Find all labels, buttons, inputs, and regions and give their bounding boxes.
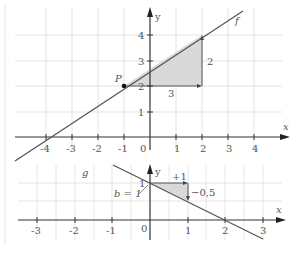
point-p [122,84,127,89]
x-tick-label: -1 [118,143,128,154]
x-tick-label: -4 [40,143,50,154]
run-label-f: 3 [168,88,174,99]
y-axis-label-bottom: y [154,166,161,177]
x-tick-label: 0 [141,223,147,234]
y-tick-label: 1 [138,107,144,118]
x-tick-label: 4 [252,143,258,154]
intercept-label: b = 1 [114,188,142,199]
rise-label-f: 2 [207,56,213,67]
slope-triangle-f [124,35,202,86]
y-tick-label: 4 [138,30,144,41]
x-tick-label: 0 [140,143,146,154]
x-tick-label: 1 [185,225,191,236]
x-axis-arrow-bottom [276,217,286,223]
point-p-label: P [114,73,122,84]
function-f-label: f [234,15,241,26]
y-axis-label-top: y [154,11,161,22]
run-label-g: +1 [172,171,187,182]
x-tick-label: -1 [106,225,116,236]
x-tick-label: -3 [66,143,76,154]
diagram-canvas: -4 -3 -2 -1 0 1 2 3 4 1 2 3 4 x y P f 3 … [0,0,300,257]
y-tick-label: 2 [138,81,144,92]
x-tick-label: 3 [260,225,266,236]
x-axis-arrow-top [280,134,290,140]
rise-label-g: −0,5 [191,187,215,198]
x-axis-label-bottom: x [276,204,282,215]
x-tick-label: 2 [222,225,228,236]
y-axis-arrow-top [147,7,153,17]
y-tick-label: 3 [138,56,144,67]
x-tick-label: 3 [226,143,232,154]
x-tick-label: 1 [174,143,180,154]
x-axis-label-top: x [283,121,289,132]
function-g-label: g [82,167,88,178]
x-tick-label: 2 [200,143,206,154]
x-tick-label: -2 [92,143,102,154]
x-tick-label: -3 [31,225,41,236]
y-axis-arrow-bottom [147,164,153,174]
x-tick-label: -2 [69,225,79,236]
